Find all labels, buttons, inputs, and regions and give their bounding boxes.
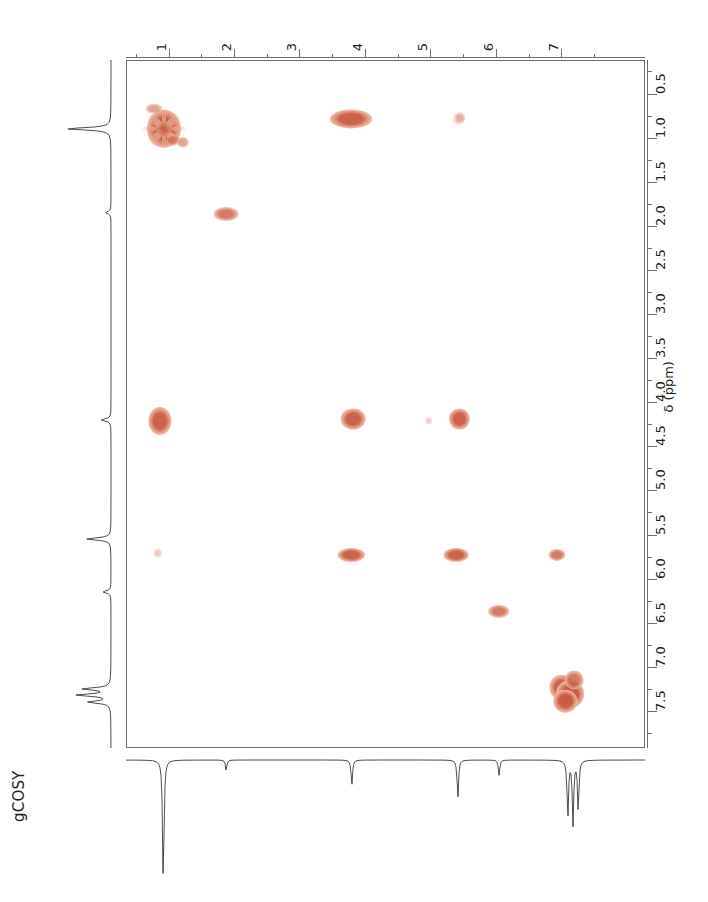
contour-peak: [554, 690, 577, 713]
contour-peak: [548, 549, 565, 561]
contour-peak: [444, 548, 469, 562]
axis-right-minor-tick: [648, 248, 652, 249]
peak-artifact-arm: [162, 109, 166, 149]
axis-right-tick-label: 1.5: [653, 161, 668, 182]
axis-right-minor-tick: [648, 557, 652, 558]
axis-top-minor-tick: [332, 54, 333, 58]
axis-right-minor-tick: [648, 424, 652, 425]
axis-right-tick-label: 2.0: [653, 205, 668, 226]
axis-right-tick-label: 2.5: [653, 249, 668, 270]
axis-right-tick-label: 3.0: [653, 293, 668, 314]
experiment-label: gCOSY: [10, 702, 32, 822]
axis-right-major-tick: [648, 270, 657, 271]
axis-top-minor-tick: [594, 54, 595, 58]
axis-right-tick-label: 1.0: [653, 117, 668, 138]
contour-peak: [145, 103, 162, 114]
axis-top-minor-tick: [398, 54, 399, 58]
contour-peak: [453, 114, 465, 125]
peak-artifact-diagonal: [147, 112, 182, 147]
axis-right-major-tick: [648, 711, 657, 712]
contour-peak: [565, 671, 584, 690]
axis-top-tick-label: 3: [284, 43, 299, 51]
contour-peak: [166, 135, 180, 146]
axis-top-minor-tick: [136, 54, 137, 58]
axis-right-tick-label: 5.0: [653, 470, 668, 491]
contour-peak: [488, 605, 510, 617]
axis-right-tick-label: 6.5: [653, 602, 668, 623]
axis-right-tick-label: 0.5: [653, 73, 668, 94]
axis-right-tick-label: 4.5: [653, 426, 668, 447]
contour-peak: [549, 675, 574, 700]
axis-right-tick-label: 7.5: [653, 690, 668, 711]
axis-right-minor-tick: [648, 336, 652, 337]
axis-right-minor-tick: [648, 204, 652, 205]
axis-top-tick-label: 2: [219, 43, 234, 51]
axis-right-minor-tick: [648, 380, 652, 381]
axis-right-minor-tick: [648, 689, 652, 690]
axis-right-minor-tick: [648, 71, 652, 72]
axis-top-major-tick: [561, 49, 562, 58]
axis-right-f1: 0.51.01.52.02.53.03.54.04.55.05.56.06.57…: [647, 60, 649, 748]
contour-peak: [425, 417, 433, 424]
axis-top-f2: 1234567: [126, 57, 645, 59]
projection-left-trace: [55, 60, 115, 748]
axis-right-major-tick: [648, 314, 657, 315]
axis-right-major-tick: [648, 402, 657, 403]
peak-artifact-diagonal: [147, 112, 182, 147]
axis-top-minor-tick: [267, 54, 268, 58]
axis-top-tick-label: 7: [546, 43, 561, 51]
projection-left-f1: [55, 60, 115, 748]
contour-peak: [338, 548, 364, 562]
axis-right-minor-tick: [648, 645, 652, 646]
axis-top-tick-label: 6: [481, 43, 496, 51]
axis-right-major-tick: [648, 446, 657, 447]
contour-peak: [147, 110, 181, 149]
axis-top-minor-tick: [529, 54, 530, 58]
axis-right-minor-tick: [648, 116, 652, 117]
axis-top-major-tick: [365, 49, 366, 58]
axis-right-major-tick: [648, 490, 657, 491]
contour-peak: [340, 409, 365, 430]
contour-peak: [449, 409, 469, 430]
contour-peak: [176, 137, 188, 148]
axis-top-minor-tick: [201, 54, 202, 58]
axis-top-major-tick: [430, 49, 431, 58]
nmr-figure: gCOSY 1234567 0.51.01.52.02.53.03.54.04.…: [0, 0, 708, 902]
contour-peak: [148, 407, 171, 435]
contour-peak: [331, 110, 373, 129]
axis-top-line: [126, 57, 645, 58]
peak-artifact-arm: [141, 127, 187, 131]
spectrum-plot-area: [126, 60, 645, 748]
axis-top-tick-label: 1: [154, 43, 169, 51]
axis-right-tick-label: 5.5: [653, 514, 668, 535]
axis-right-minor-tick: [648, 292, 652, 293]
axis-top-tick-label: 4: [350, 43, 365, 51]
axis-right-tick-label: 3.5: [653, 337, 668, 358]
axis-right-title: δ (ppm): [661, 361, 676, 412]
contour-peak: [556, 680, 584, 708]
axis-right-minor-tick: [648, 733, 652, 734]
axis-right-minor-tick: [648, 601, 652, 602]
axis-right-major-tick: [648, 358, 657, 359]
axis-top-minor-tick: [463, 54, 464, 58]
axis-top-tick-label: 5: [415, 43, 430, 51]
axis-right-minor-tick: [648, 512, 652, 513]
axis-right-tick-label: 7.0: [653, 646, 668, 667]
axis-top-major-tick: [234, 49, 235, 58]
projection-bottom-trace: [126, 756, 645, 896]
axis-right-minor-tick: [648, 468, 652, 469]
contour-peak: [455, 112, 466, 123]
projection-bottom-f2: [126, 756, 645, 896]
axis-right-minor-tick: [648, 160, 652, 161]
axis-top-major-tick: [299, 49, 300, 58]
contour-peak: [213, 207, 238, 221]
axis-right-tick-label: 6.0: [653, 558, 668, 579]
contour-peak: [153, 549, 162, 558]
